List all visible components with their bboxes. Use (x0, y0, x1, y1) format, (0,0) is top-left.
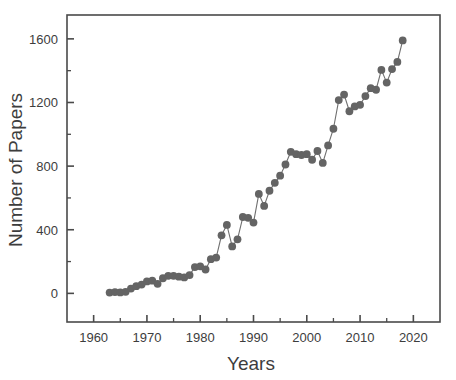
data-point (223, 221, 231, 229)
data-point (324, 142, 332, 150)
y-axis-title: Number of Papers (5, 93, 26, 247)
x-tick-label: 1980 (186, 330, 215, 345)
data-point (399, 37, 407, 45)
data-point (282, 161, 290, 169)
y-tick-label: 800 (36, 159, 58, 174)
data-point (276, 172, 284, 180)
x-tick-label: 1970 (132, 330, 161, 345)
data-point (372, 86, 380, 94)
y-tick-label: 1200 (29, 95, 58, 110)
y-tick-label: 1600 (29, 32, 58, 47)
y-tick-label: 0 (51, 286, 58, 301)
data-point (234, 235, 242, 243)
axis-tick-labels: 1960197019801990200020102020040080012001… (29, 32, 428, 345)
data-point (266, 187, 274, 195)
x-tick-label: 2000 (292, 330, 321, 345)
data-point (250, 219, 258, 227)
plot-frame (67, 15, 440, 322)
data-point (255, 190, 263, 198)
line-chart: 1960197019801990200020102020040080012001… (0, 0, 456, 380)
x-tick-label: 2010 (346, 330, 375, 345)
data-point (377, 66, 385, 74)
x-tick-label: 2020 (399, 330, 428, 345)
data-point (308, 156, 316, 164)
data-point (314, 147, 322, 155)
data-point (271, 179, 279, 187)
data-point (260, 202, 268, 210)
data-series (106, 37, 407, 297)
data-point (319, 159, 327, 167)
x-axis-title: Years (227, 353, 275, 374)
data-point (340, 91, 348, 99)
data-point (186, 271, 194, 279)
data-point (212, 254, 220, 262)
data-point (330, 125, 338, 133)
data-point (356, 101, 364, 109)
chart-figure: 1960197019801990200020102020040080012001… (0, 0, 456, 380)
axis-ticks (67, 39, 413, 322)
data-point (393, 58, 401, 66)
data-point (388, 65, 396, 73)
chart-axes (67, 15, 440, 322)
data-point (362, 92, 370, 100)
data-point (202, 266, 210, 274)
series-line (110, 40, 403, 292)
data-point (228, 243, 236, 251)
y-tick-label: 400 (36, 223, 58, 238)
x-tick-label: 1990 (239, 330, 268, 345)
data-point (383, 79, 391, 87)
data-point (218, 231, 226, 239)
x-tick-label: 1960 (79, 330, 108, 345)
